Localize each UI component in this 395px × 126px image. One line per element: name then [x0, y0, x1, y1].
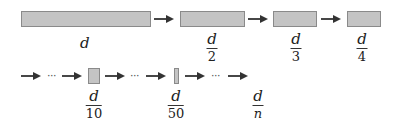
arrow-right-icon: [21, 71, 41, 81]
arrow-right-icon: [154, 14, 174, 24]
arrow-right-icon: [248, 14, 268, 24]
label-d-over-50: d 50: [168, 89, 185, 120]
arrow-right-icon: [321, 14, 341, 24]
ellipsis: ···: [130, 71, 139, 81]
arrow-right-icon: [146, 71, 166, 81]
segment-d-over-3: [273, 11, 317, 27]
label-d-over-10: d 10: [86, 89, 103, 120]
label-d: d: [80, 36, 90, 51]
arrow-right-icon: [228, 71, 248, 81]
segment-d-over-50: [174, 68, 179, 84]
label-d-over-4: d 4: [357, 32, 368, 63]
arrow-right-icon: [105, 71, 125, 81]
segment-d-over-4: [347, 11, 381, 27]
label-d-over-n: d n: [253, 89, 264, 120]
ellipsis: ···: [211, 71, 220, 81]
arrow-right-icon: [185, 71, 205, 81]
label-d-over-3: d 3: [291, 32, 302, 63]
arrow-right-icon: [62, 71, 82, 81]
diagram-division-sequence: d d 2 d 3 d 4 ··· ··· ··· d 10: [0, 0, 395, 126]
segment-d-over-2: [180, 11, 245, 27]
segment-d: [21, 11, 151, 27]
segment-d-over-10: [88, 68, 100, 84]
label-d-over-2: d 2: [207, 32, 218, 63]
ellipsis: ···: [47, 71, 56, 81]
